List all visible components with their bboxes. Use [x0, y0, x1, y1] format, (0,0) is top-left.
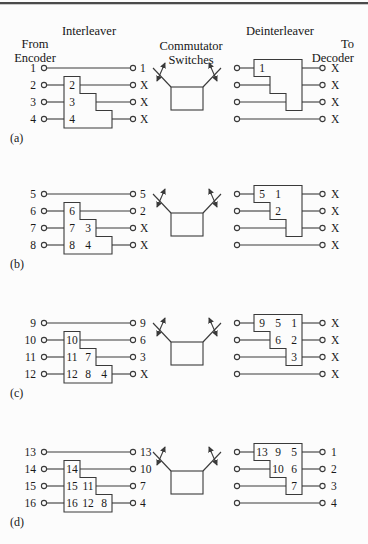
interleaver-output-label: 2 [140, 205, 146, 217]
interleaver-output-label: 13 [140, 446, 152, 458]
deinterleaver-cell-value: 5 [275, 317, 281, 329]
commutator-switch-right [203, 447, 221, 471]
deinterleaver-b: X51X2XX [234, 186, 340, 252]
input-terminal [41, 337, 46, 342]
input-terminal [41, 65, 46, 70]
interleaver-cell-value: 4 [101, 368, 107, 380]
deinterleaver-output-label: X [331, 351, 340, 363]
interleaver-cell-value: 4 [85, 239, 91, 251]
deinterleaver-cell-value: 7 [291, 480, 297, 492]
deinterleaver-output-label: 1 [331, 446, 337, 458]
interleaver-output-label: 3 [140, 351, 146, 363]
deinterleaver-input-terminal [234, 371, 239, 376]
input-terminal [41, 82, 46, 87]
diagram-group-c: 991061011311712X1284X951X62X3X(c) [10, 315, 340, 401]
deinterleaver-input-terminal [234, 208, 239, 213]
deinterleaver-output-label: X [331, 239, 340, 251]
commutator-a [153, 63, 221, 110]
switch-rotation-arrow-up [209, 189, 214, 201]
output-terminal [130, 500, 135, 505]
deinterleaver-output-terminal [320, 82, 325, 87]
output-terminal [130, 354, 135, 359]
deinterleaver-input-terminal [234, 449, 239, 454]
switch-rotation-arrow-up [209, 447, 214, 459]
deinterleaver-cell-value: 5 [259, 188, 265, 200]
figure-page: Interleaver From Encoder Commutator Swit… [0, 0, 368, 544]
input-line-label: 13 [25, 446, 37, 458]
deinterleaver-output-terminal [320, 116, 325, 121]
deinterleaver-input-terminal [234, 483, 239, 488]
interleaver-output-label: X [140, 96, 149, 108]
switch-rotation-arrow-down [214, 330, 217, 336]
deinterleaver-input-terminal [234, 242, 239, 247]
interleaver-cell-value: 11 [66, 351, 77, 363]
output-terminal [130, 65, 135, 70]
deinterleaver-output-label: X [331, 205, 340, 217]
output-terminal [130, 320, 135, 325]
interleaver-d: 1313141014157151116416128 [25, 446, 152, 512]
deinterleaver-output-terminal [320, 500, 325, 505]
input-line-label: 12 [25, 368, 37, 380]
interleaver-cell-value: 16 [66, 497, 78, 509]
deinterleaver-output-terminal [320, 191, 325, 196]
deinterleaver-output-label: X [331, 188, 340, 200]
deinterleaver-output-label: X [331, 222, 340, 234]
deinterleaver-output-label: X [331, 79, 340, 91]
commutator-switch-right [203, 63, 221, 87]
deinterleaver-c: X951X62X3X [234, 315, 340, 381]
deinterleaver-output-label: X [331, 368, 340, 380]
deinterleaver-input-terminal [234, 354, 239, 359]
group-label: (c) [10, 386, 23, 400]
deinterleaver-cell-value: 1 [291, 317, 297, 329]
deinterleaver-output-terminal [320, 337, 325, 342]
output-terminal [130, 191, 135, 196]
input-line-label: 4 [30, 113, 36, 125]
input-terminal [41, 191, 46, 196]
output-terminal [130, 371, 135, 376]
switch-rotation-arrow-down [214, 201, 217, 207]
switch-rotation-arrow-up [209, 63, 214, 75]
deinterleaver-input-terminal [234, 99, 239, 104]
output-terminal [130, 337, 135, 342]
interleaver-output-label: 6 [140, 334, 146, 346]
commutator-switch-left [153, 447, 171, 471]
deinterleaver-output-terminal [320, 65, 325, 70]
interleaver-a: 112X23X34X4 [30, 62, 149, 128]
input-line-label: 1 [30, 62, 36, 74]
deinterleaver-cell-value: 6 [275, 334, 281, 346]
interleaver-cell-value: 2 [69, 79, 75, 91]
interleaver-cell-value: 12 [82, 497, 94, 509]
deinterleaver-output-terminal [320, 371, 325, 376]
output-terminal [130, 208, 135, 213]
switch-rotation-arrow-down [157, 201, 160, 207]
interleaver-cell-value: 3 [69, 96, 75, 108]
interleaver-cell-value: 11 [82, 480, 93, 492]
input-terminal [41, 449, 46, 454]
interleaver-output-label: X [140, 239, 149, 251]
deinterleaver-input-terminal [234, 337, 239, 342]
deinterleaver-cell-value: 3 [291, 351, 297, 363]
deinterleaver-input-terminal [234, 320, 239, 325]
deinterleaver-cell-value: 10 [272, 463, 284, 475]
input-line-label: 16 [25, 497, 37, 509]
interleaver-cell-value: 14 [66, 463, 78, 475]
deinterleaver-output-label: X [331, 113, 340, 125]
output-terminal [130, 466, 135, 471]
input-line-label: 6 [30, 205, 36, 217]
deinterleaver-d: 113952106374 [234, 444, 337, 510]
input-line-label: 15 [25, 480, 37, 492]
commutator-switch-left [153, 318, 171, 342]
input-line-label: 11 [25, 351, 36, 363]
deinterleaver-output-label: X [331, 317, 340, 329]
deinterleaver-output-terminal [320, 208, 325, 213]
deinterleaver-output-terminal [320, 449, 325, 454]
interleaver-cell-value: 8 [69, 239, 75, 251]
commutator-c [153, 318, 221, 365]
interleaver-cell-value: 12 [66, 368, 78, 380]
switch-rotation-arrow-up [209, 318, 214, 330]
output-terminal [130, 116, 135, 121]
interleaver-output-label: 10 [140, 463, 152, 475]
interleaver-cell-value: 6 [69, 205, 75, 217]
deinterleaver-output-terminal [320, 99, 325, 104]
deinterleaver-a: X1XXX [234, 60, 340, 126]
